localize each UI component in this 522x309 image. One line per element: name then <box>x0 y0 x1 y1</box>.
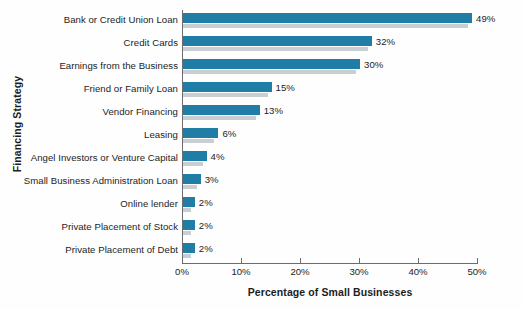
bar-row: Angel Investors or Venture Capital4% <box>183 151 478 174</box>
bar-shadow <box>183 70 356 74</box>
category-label: Private Placement of Debt <box>65 244 178 255</box>
y-axis-title: Financing Strategy <box>11 39 23 209</box>
bar-chart: Financing Strategy 0%10%20%30%40%50% Ban… <box>0 0 522 309</box>
bar-row: Earnings from the Business30% <box>183 59 478 82</box>
bar-row: Leasing6% <box>183 128 478 151</box>
category-label: Friend or Family Loan <box>84 83 178 94</box>
bar[interactable] <box>183 151 207 161</box>
bar-shadow <box>183 116 256 120</box>
value-label: 30% <box>364 59 383 70</box>
category-label: Leasing <box>144 129 178 140</box>
value-label: 4% <box>211 151 225 162</box>
value-label: 13% <box>264 105 283 116</box>
x-axis-tick-label: 50% <box>467 266 486 277</box>
category-label: Online lender <box>120 198 178 209</box>
bar-shadow <box>183 162 203 166</box>
bar[interactable] <box>183 36 372 46</box>
category-label: Earnings from the Business <box>59 60 178 71</box>
bar-shadow <box>183 24 468 28</box>
bar-row: Friend or Family Loan15% <box>183 82 478 105</box>
bar-shadow <box>183 185 197 189</box>
category-label: Small Business Administration Loan <box>24 175 178 186</box>
bar-row: Private Placement of Stock2% <box>183 220 478 243</box>
category-label: Credit Cards <box>124 37 178 48</box>
bar-shadow <box>183 93 268 97</box>
bar-row: Private Placement of Debt2% <box>183 243 478 266</box>
bar-row: Bank or Credit Union Loan49% <box>183 13 478 36</box>
x-axis-tick-label: 0% <box>175 266 189 277</box>
x-axis-title: Percentage of Small Businesses <box>182 286 478 298</box>
value-label: 3% <box>205 174 219 185</box>
category-label: Bank or Credit Union Loan <box>64 14 178 25</box>
bar-shadow <box>183 47 368 51</box>
bar-row: Online lender2% <box>183 197 478 220</box>
value-label: 49% <box>476 13 495 24</box>
category-label: Angel Investors or Venture Capital <box>31 152 178 163</box>
value-label: 2% <box>199 220 213 231</box>
bar-row: Credit Cards32% <box>183 36 478 59</box>
bar[interactable] <box>183 82 272 92</box>
bar[interactable] <box>183 13 472 23</box>
x-axis-tick-label: 30% <box>349 266 368 277</box>
value-label: 2% <box>199 243 213 254</box>
value-label: 6% <box>222 128 236 139</box>
value-label: 15% <box>276 82 295 93</box>
value-label: 32% <box>376 36 395 47</box>
bar-row: Small Business Administration Loan3% <box>183 174 478 197</box>
plot-area: Bank or Credit Union Loan49%Credit Cards… <box>183 10 478 263</box>
category-label: Vendor Financing <box>103 106 178 117</box>
x-axis-tick-label: 10% <box>231 266 250 277</box>
bar[interactable] <box>183 105 260 115</box>
bar[interactable] <box>183 59 360 69</box>
category-label: Private Placement of Stock <box>62 221 178 232</box>
bar-shadow <box>183 208 191 212</box>
bar-row: Vendor Financing13% <box>183 105 478 128</box>
bar[interactable] <box>183 220 195 230</box>
value-label: 2% <box>199 197 213 208</box>
x-axis-tick-label: 20% <box>290 266 309 277</box>
bar[interactable] <box>183 174 201 184</box>
x-axis-tick-label: 40% <box>408 266 427 277</box>
bar-shadow <box>183 231 191 235</box>
bar-shadow <box>183 254 191 258</box>
bar-shadow <box>183 139 214 143</box>
bar[interactable] <box>183 128 218 138</box>
bar[interactable] <box>183 197 195 207</box>
bar[interactable] <box>183 243 195 253</box>
